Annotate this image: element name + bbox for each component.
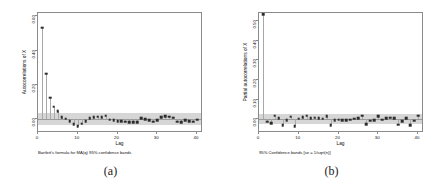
- data-point: [100, 116, 103, 119]
- data-point: [274, 114, 277, 117]
- data-point: [389, 116, 392, 119]
- data-point: [156, 119, 159, 122]
- y-tick-label: 0.50: [253, 20, 258, 29]
- x-tick-mark: [156, 132, 157, 134]
- data-point: [317, 117, 320, 120]
- y-tick-label: 0.00: [253, 118, 258, 127]
- stem: [50, 98, 51, 119]
- data-point: [369, 119, 372, 122]
- data-point: [409, 124, 412, 127]
- data-point: [393, 117, 396, 120]
- data-point: [188, 120, 191, 123]
- data-point: [305, 114, 308, 117]
- data-point: [325, 115, 328, 118]
- stem: [42, 28, 43, 119]
- data-point: [321, 118, 324, 121]
- data-point: [361, 114, 364, 117]
- data-point: [270, 122, 273, 125]
- data-point: [196, 119, 199, 122]
- data-point: [353, 118, 356, 121]
- x-tick-mark: [258, 132, 259, 134]
- data-point: [385, 117, 388, 120]
- acf-plot: Autocorrelations of X 0.000.200.400.60 0…: [0, 0, 221, 163]
- data-point: [76, 125, 79, 128]
- x-tick-mark: [37, 132, 38, 134]
- figure-acf-pacf: Autocorrelations of X 0.000.200.400.60 0…: [0, 0, 442, 191]
- data-point: [136, 121, 139, 124]
- data-point: [301, 116, 304, 119]
- data-point: [333, 119, 336, 122]
- data-point: [140, 117, 143, 120]
- data-point: [72, 123, 75, 126]
- data-point: [417, 114, 420, 117]
- data-point: [88, 117, 91, 120]
- data-point: [172, 116, 175, 119]
- stem: [46, 74, 47, 119]
- data-point: [293, 125, 296, 128]
- pacf-plot-area: [258, 12, 423, 132]
- data-point: [124, 120, 127, 123]
- x-tick-label: 0: [257, 135, 259, 140]
- y-tick-label: 0.00: [32, 118, 37, 127]
- data-point: [120, 120, 123, 123]
- x-tick-mark: [77, 132, 78, 134]
- x-tick-label: 40: [194, 135, 199, 140]
- subcaption-a: (a): [0, 164, 221, 179]
- data-point: [341, 119, 344, 122]
- data-point: [286, 119, 289, 122]
- data-point: [41, 26, 44, 29]
- data-point: [104, 114, 107, 117]
- data-point: [401, 120, 404, 123]
- data-point: [148, 119, 151, 122]
- acf-footnote: Bartlett's formula for MA(q) 95% confide…: [38, 150, 131, 155]
- y-tick-label: 0.60: [32, 15, 37, 24]
- y-tick-label: 0.20: [253, 79, 258, 88]
- data-point: [168, 115, 171, 118]
- pacf-x-axis-label: Lag: [258, 141, 423, 146]
- data-point: [69, 120, 72, 123]
- x-tick-mark: [117, 132, 118, 134]
- data-point: [61, 116, 64, 119]
- data-point: [329, 124, 332, 127]
- data-point: [180, 121, 183, 124]
- data-point: [413, 119, 416, 122]
- x-tick-label: 10: [74, 135, 79, 140]
- x-tick-mark: [417, 132, 418, 134]
- stem: [263, 14, 264, 119]
- data-point: [84, 120, 87, 123]
- x-tick-mark: [298, 132, 299, 134]
- data-point: [53, 105, 56, 108]
- panel-b: Partial autocorrelations of X 0.000.100.…: [221, 0, 442, 191]
- y-tick-label: 0.10: [253, 99, 258, 108]
- data-point: [96, 116, 99, 119]
- data-point: [57, 110, 60, 113]
- data-point: [152, 120, 155, 123]
- y-tick-label: 0.20: [32, 84, 37, 93]
- data-point: [397, 123, 400, 126]
- x-tick-label: 20: [335, 135, 340, 140]
- x-tick-label: 40: [415, 135, 420, 140]
- acf-x-axis-label: Lag: [37, 141, 202, 146]
- data-point: [116, 120, 119, 123]
- y-tick-label: 0.30: [253, 59, 258, 68]
- x-tick-label: 30: [154, 135, 159, 140]
- data-point: [405, 117, 408, 120]
- data-point: [345, 119, 348, 122]
- pacf-footnote: 95% Confidence bands [se = 1/sqrt(n)]: [259, 150, 331, 155]
- data-point: [266, 120, 269, 123]
- data-point: [262, 13, 265, 16]
- x-tick-label: 20: [114, 135, 119, 140]
- data-point: [349, 118, 352, 121]
- data-point: [176, 120, 179, 123]
- acf-y-axis: 0.000.200.400.60: [0, 0, 37, 132]
- data-point: [381, 118, 384, 121]
- data-point: [65, 117, 68, 120]
- x-tick-mark: [377, 132, 378, 134]
- data-point: [112, 119, 115, 122]
- data-point: [92, 116, 95, 119]
- panel-a: Autocorrelations of X 0.000.200.400.60 0…: [0, 0, 221, 191]
- data-point: [192, 120, 195, 123]
- pacf-y-axis: 0.000.100.200.300.400.50: [221, 0, 258, 132]
- stem: [54, 107, 55, 119]
- data-point: [184, 119, 187, 122]
